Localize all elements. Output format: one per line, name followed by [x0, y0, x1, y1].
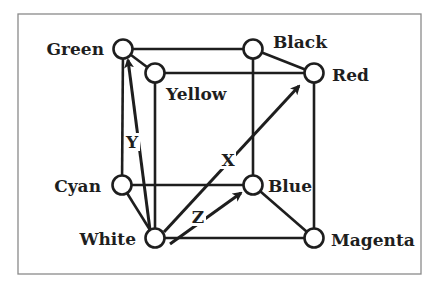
axis-x-label: X	[221, 150, 235, 170]
vertex-label-white: White	[78, 229, 136, 249]
cube-vertices	[113, 40, 324, 248]
vertex-label-magenta: Magenta	[331, 230, 415, 250]
axis-z-label: Z	[192, 207, 204, 227]
vertex-labels: GreenYellowBlackRedCyanBlueWhiteMagenta	[47, 32, 415, 250]
edge-green-cyan	[122, 49, 123, 185]
vertex-label-blue: Blue	[268, 176, 312, 196]
vertex-black	[244, 40, 263, 59]
vertex-blue	[244, 176, 263, 195]
color-cube-diagram: GreenYellowBlackRedCyanBlueWhiteMagenta …	[0, 0, 438, 287]
vertex-yellow	[146, 64, 165, 83]
vertex-magenta	[305, 229, 324, 248]
vertex-label-green: Green	[47, 39, 104, 59]
vertex-label-red: Red	[332, 65, 369, 85]
vertex-white	[146, 229, 165, 248]
vertex-red	[305, 64, 324, 83]
diagram-canvas: GreenYellowBlackRedCyanBlueWhiteMagenta …	[0, 0, 438, 287]
vertex-green	[114, 40, 133, 59]
vertex-label-cyan: Cyan	[54, 176, 101, 196]
axis-y-label: Y	[125, 132, 139, 152]
vertex-cyan	[113, 176, 132, 195]
vertex-label-yellow: Yellow	[165, 84, 227, 104]
vertex-label-black: Black	[273, 32, 328, 52]
